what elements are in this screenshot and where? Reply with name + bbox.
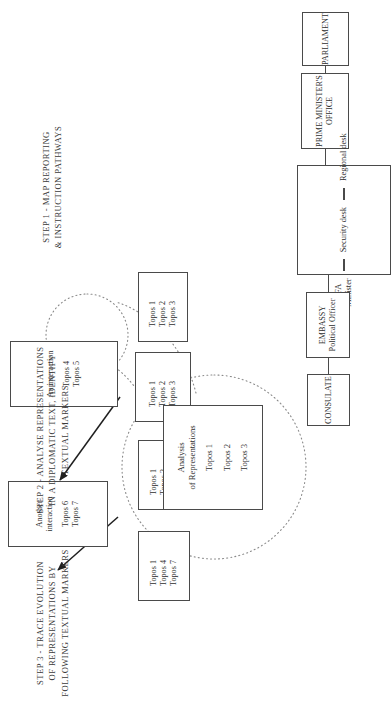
connector-parliament-pmo [325, 65, 326, 73]
connector-pmo-mfa [325, 149, 326, 165]
analysis-title-line1: Analysis [176, 442, 186, 472]
topos-box-4: Topos 1 Topos 4 Topos 7 [138, 531, 190, 601]
connector-embassy-consulate [328, 358, 329, 374]
analysis-topos-1: Topos 1 [204, 444, 214, 471]
step2-caption-line3: TEXTUAL MARKERS [59, 323, 71, 537]
mfa-separator-2 [343, 188, 344, 200]
parliament-label: PARLIAMENT [321, 13, 331, 65]
mfa-row: MFA Minister Security desk Regional desk [334, 133, 355, 306]
topos-box-1-item-3: Topos 3 [168, 273, 178, 341]
step1-caption-line2: & INSTRUCTION PATHWAYS [52, 87, 64, 287]
step2-caption-line2: IN A DIPLOMATIC TEXT, IDENTIFY [46, 323, 58, 537]
mfa-security-desk-label: Security desk [339, 207, 349, 252]
topos-box-4-item-3: Topos 7 [169, 532, 179, 600]
step3-caption-line3: FOLLOWING TEXTUAL MARKERS [59, 525, 71, 701]
analysis-of-representations-box: Analysis of Representations Topos 1 Topo… [163, 405, 263, 510]
interaction-2-topos-b: Topos 7 [71, 501, 81, 527]
mfa-regional-desk-label: Regional desk [339, 133, 349, 181]
topos-box-1-item-1: Topos 1 [148, 273, 158, 341]
pmo-label-line2: OFFICE [325, 97, 335, 125]
topos-box-1: Topos 1 Topos 2 Topos 3 [138, 272, 188, 342]
topos-box-4-item-2: Topos 4 [159, 532, 169, 600]
mfa-box: MFA Minister Security desk Regional desk [297, 165, 391, 275]
mfa-separator-1 [343, 259, 344, 271]
step2-caption: STEP 2 - ANALYSE REPRESENTATIONS IN A DI… [34, 323, 71, 537]
consulate-label: CONSULATE [324, 376, 334, 424]
step3-caption: STEP 3 - TRACE EVOLUTION OF REPRESENTATI… [34, 525, 71, 701]
topos-box-2-item-1: Topos 1 [148, 353, 158, 421]
step3-caption-line1: STEP 3 - TRACE EVOLUTION [34, 525, 46, 701]
step3-caption-line2: OF REPRESENTATIONS BY [46, 525, 58, 701]
step1-caption: STEP 1 - MAP REPORTING & INSTRUCTION PAT… [40, 87, 65, 287]
topos-box-4-item-1: Topos 1 [149, 532, 159, 600]
consulate-box: CONSULATE [307, 374, 350, 426]
parliament-box: PARLIAMENT [302, 12, 349, 66]
embassy-box: EMBASSY Political Officer [306, 292, 350, 358]
pmo-label-line1: PRIME MINISTER'S [315, 75, 325, 147]
topos-box-1-item-2: Topos 2 [158, 273, 168, 341]
embassy-label-line2: Political Officer [328, 299, 338, 352]
analysis-title-line2: of Representations [187, 425, 197, 489]
analysis-topos-2: Topos 2 [222, 444, 232, 471]
step1-caption-line1: STEP 1 - MAP REPORTING [40, 87, 52, 287]
connector-mfa-embassy [328, 275, 329, 292]
interaction-1-topos-b: Topos 5 [72, 361, 82, 387]
embassy-label-line1: EMBASSY [318, 306, 328, 345]
step2-caption-line1: STEP 2 - ANALYSE REPRESENTATIONS [34, 323, 46, 537]
analysis-topos-3: Topos 3 [239, 444, 249, 471]
topos-box-3-item-1: Topos 1 [149, 441, 159, 509]
